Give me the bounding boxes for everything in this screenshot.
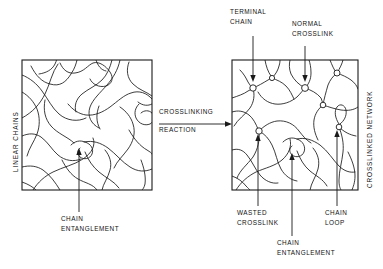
chain-strand [97, 106, 100, 129]
callout-label-line2: CROSSLINK [237, 219, 279, 226]
callout-label-line1: CHAIN [61, 215, 83, 222]
crosslink-node-wasted [256, 128, 262, 134]
chain-strand [44, 100, 74, 143]
arrowhead [76, 148, 81, 155]
chain-strand [323, 73, 337, 105]
arrowhead [302, 75, 307, 82]
chain-strand [22, 64, 58, 118]
chain-strand [22, 75, 86, 120]
crosslink-nodes [250, 70, 342, 134]
chain-loop-right [335, 105, 346, 124]
polymer-network-diagram: CHAIN ENTANGLEMENT LINEAR CHAINS CROSSLI… [0, 0, 383, 269]
arrowhead [334, 130, 339, 137]
arrowhead [255, 134, 260, 141]
chain-strand [339, 127, 343, 190]
callout-terminal-chain: TERMINAL CHAIN [230, 8, 266, 82]
process-arrowhead [225, 121, 232, 126]
chain-strand [236, 139, 291, 190]
chain-loop-left [135, 104, 154, 125]
callout-label-line2: CROSSLINK [292, 30, 334, 37]
callout-label-line2: ENTANGLEMENT [61, 225, 119, 232]
crosslink-node [320, 102, 326, 108]
chain-strand [310, 148, 319, 190]
chain-strand [297, 151, 327, 186]
callout-label-line1: NORMAL [292, 20, 322, 27]
chain-strand [289, 60, 305, 88]
chain-strand [272, 78, 294, 99]
callout-label-line1: CHAIN [325, 209, 347, 216]
crosslink-node [334, 70, 340, 76]
linear-chain-strands [22, 56, 154, 190]
crosslink-node-normal [302, 85, 309, 92]
chain-strand [314, 105, 323, 140]
chain-strand [85, 152, 119, 188]
chain-strand [102, 150, 111, 190]
callout-label-line2: CHAIN [230, 18, 252, 25]
chain-strand [259, 121, 311, 143]
callout-label-line1: TERMINAL [230, 8, 266, 15]
chain-strand [114, 107, 134, 168]
chain-strand [337, 73, 358, 89]
crosslink-node [269, 75, 274, 80]
callout-wasted-crosslink: WASTED CROSSLINK [237, 134, 279, 226]
chain-strand [348, 152, 355, 190]
callout-chain-entanglement-right: CHAIN ENTANGLEMENT [277, 153, 335, 256]
entanglement-loop-right [283, 138, 305, 157]
figure-root: CHAIN ENTANGLEMENT LINEAR CHAINS CROSSLI… [0, 0, 383, 269]
process-label-line2: REACTION [159, 126, 196, 133]
chain-strand [22, 92, 39, 156]
callout-label-line2: ENTANGLEMENT [277, 249, 335, 256]
crosslink-node-loop-anchor [336, 124, 342, 130]
callout-chain-loop: CHAIN LOOP [325, 130, 347, 226]
callout-label-line1: WASTED [237, 209, 267, 216]
arrowhead [250, 75, 255, 82]
process-label-line1: CROSSLINKING [159, 108, 213, 115]
right-panel: TERMINAL CHAIN NORMAL CROSSLINK WASTED C… [230, 8, 373, 256]
chain-strand [265, 60, 271, 76]
callout-normal-crosslink: NORMAL CROSSLINK [292, 20, 334, 82]
entanglement-loop-left [71, 141, 93, 159]
chain-strand [141, 160, 145, 190]
right-side-label: CROSSLINKED NETWORK [366, 91, 373, 188]
crosslink-node [250, 85, 256, 91]
chain-strand [127, 62, 152, 96]
chain-strand [258, 88, 305, 104]
chain-strand [60, 63, 112, 87]
chain-strand [305, 60, 311, 88]
chain-strand [138, 102, 152, 105]
crosslinking-reaction-arrow: CROSSLINKING REACTION [159, 108, 232, 133]
callout-label-line1: CHAIN [277, 239, 299, 246]
left-side-label: LINEAR CHAINS [12, 111, 19, 172]
chain-strand [237, 131, 259, 178]
left-panel: CHAIN ENTANGLEMENT LINEAR CHAINS [12, 56, 154, 232]
chain-strand [22, 166, 60, 190]
callout-label-line2: LOOP [325, 219, 345, 226]
chain-strand [323, 105, 358, 110]
